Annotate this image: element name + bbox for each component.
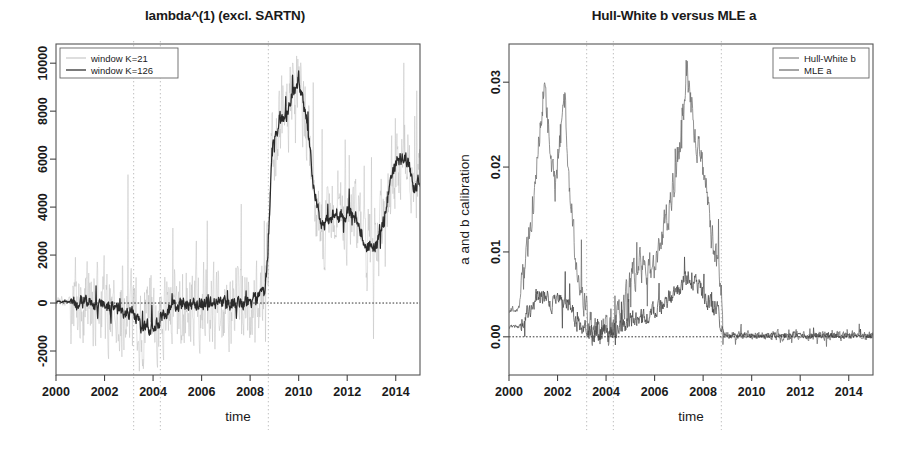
y-tick-label-3: 4000: [36, 193, 50, 221]
x-tick-label-5: 2010: [738, 385, 766, 399]
x-tick-label-2: 2004: [139, 385, 167, 399]
y-tick-label-1: 0: [36, 300, 50, 307]
legend-label-right-0: Hull-White b: [804, 53, 856, 64]
series-group: [56, 56, 420, 371]
x-tick-label-7: 2014: [382, 385, 410, 399]
y-tick-label-1: 0.01: [489, 240, 503, 264]
series-right-0: [509, 60, 873, 346]
y-tick-label-0: 0.00: [489, 325, 503, 349]
y-tick-label-2: 2000: [36, 241, 50, 269]
series-left-0: [56, 56, 420, 371]
series-group: [509, 60, 873, 346]
figure-container: lambda^(1) (excl. SARTN) 200020022004200…: [0, 0, 899, 454]
chart-panel-left: lambda^(1) (excl. SARTN) 200020022004200…: [0, 0, 450, 454]
x-tick-label-5: 2010: [285, 385, 313, 399]
series-left-1: [56, 71, 420, 335]
x-tick-label-0: 2000: [42, 385, 70, 399]
y-tick-label-4: 6000: [36, 145, 50, 173]
x-axis-title: time: [678, 409, 704, 424]
x-tick-label-6: 2012: [786, 385, 814, 399]
chart-panel-right: Hull-White b versus MLE a 20002002200420…: [449, 0, 899, 454]
legend-label-left-1: window K=126: [90, 65, 153, 76]
plot-area-right: 20002002200420062008201020122014time0.00…: [449, 0, 899, 454]
y-axis-title: a and b calibration: [457, 154, 472, 264]
x-tick-label-1: 2002: [91, 385, 119, 399]
y-tick-label-6: 10000: [36, 46, 50, 81]
y-tick-label-0: -2000: [36, 335, 50, 367]
plot-frame: [509, 44, 873, 375]
series-right-1: [509, 257, 873, 345]
x-tick-label-2: 2004: [592, 385, 620, 399]
x-axis-title: time: [225, 409, 251, 424]
plot-area-left: 20002002200420062008201020122014time-200…: [0, 0, 450, 454]
x-tick-label-6: 2012: [333, 385, 361, 399]
y-tick-label-3: 0.03: [489, 70, 503, 94]
x-tick-label-3: 2006: [188, 385, 216, 399]
x-tick-label-0: 2000: [495, 385, 523, 399]
x-tick-label-4: 2008: [689, 385, 717, 399]
x-tick-label-1: 2002: [544, 385, 572, 399]
x-tick-label-7: 2014: [835, 385, 863, 399]
x-tick-label-3: 2006: [641, 385, 669, 399]
legend-label-right-1: MLE a: [804, 65, 832, 76]
legend-label-left-0: window K=21: [90, 53, 148, 64]
y-tick-label-5: 8000: [36, 97, 50, 125]
y-tick-label-2: 0.02: [489, 155, 503, 179]
x-tick-label-4: 2008: [236, 385, 264, 399]
